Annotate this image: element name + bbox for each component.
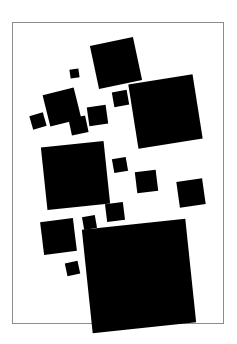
composition-layer [0, 0, 237, 344]
black-square [68, 115, 88, 135]
black-square [87, 105, 108, 126]
black-square [112, 90, 129, 107]
black-square [135, 170, 158, 193]
artwork-canvas [0, 0, 237, 344]
black-square [176, 178, 205, 207]
black-square [82, 219, 196, 333]
black-square [65, 261, 80, 276]
black-square [90, 37, 142, 89]
black-square [105, 202, 125, 222]
black-square [128, 74, 202, 148]
black-square [41, 141, 110, 210]
black-square [69, 68, 79, 78]
black-square [112, 157, 128, 173]
black-square [40, 218, 77, 255]
